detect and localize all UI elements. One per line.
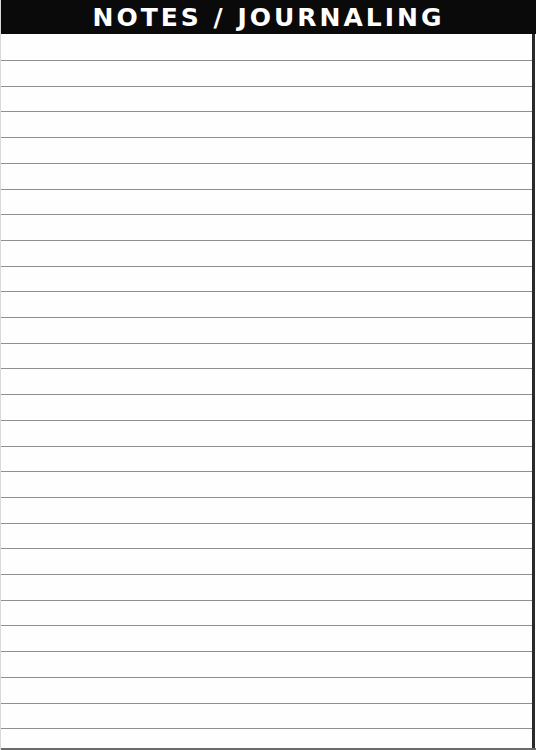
ruled-line — [1, 420, 533, 421]
right-edge-border — [532, 34, 535, 750]
ruled-line — [1, 651, 533, 652]
ruled-line — [1, 137, 533, 138]
ruled-line — [1, 471, 533, 472]
ruled-line — [1, 266, 533, 267]
ruled-line — [1, 368, 533, 369]
ruled-line — [1, 523, 533, 524]
ruled-line — [1, 240, 533, 241]
page-header: NOTES / JOURNALING — [1, 0, 536, 34]
ruled-line — [1, 60, 533, 61]
ruled-line — [1, 497, 533, 498]
ruled-line — [1, 189, 533, 190]
ruled-line — [1, 111, 533, 112]
ruled-line — [1, 343, 533, 344]
ruled-line — [1, 548, 533, 549]
ruled-line — [1, 703, 533, 704]
ruled-line — [1, 625, 533, 626]
ruled-line — [1, 677, 533, 678]
ruled-line — [1, 163, 533, 164]
ruled-line — [1, 446, 533, 447]
ruled-line — [1, 86, 533, 87]
ruled-line — [1, 728, 533, 729]
ruled-line — [1, 600, 533, 601]
page-title: NOTES / JOURNALING — [93, 0, 445, 35]
ruled-line — [1, 291, 533, 292]
ruled-line — [1, 394, 533, 395]
ruled-line — [1, 574, 533, 575]
ruled-line — [1, 317, 533, 318]
ruled-line — [1, 214, 533, 215]
